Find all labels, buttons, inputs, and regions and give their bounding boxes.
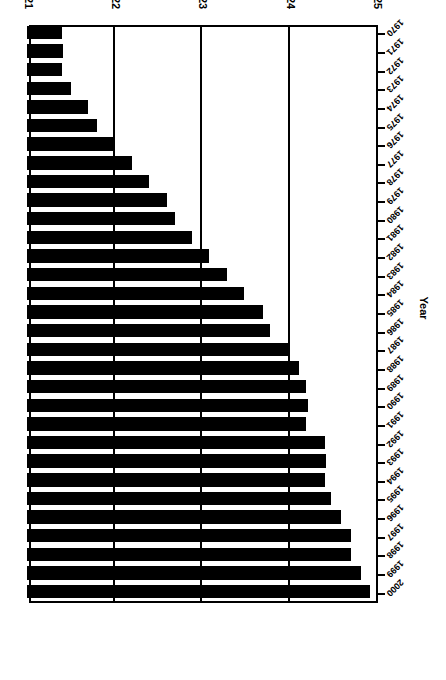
bar-row (31, 492, 376, 505)
bar-1974[interactable] (27, 100, 88, 113)
category-tick-1981 (378, 238, 385, 240)
bar-row (31, 510, 376, 523)
value-label-25: 25 (372, 0, 384, 15)
bar-1999[interactable] (27, 566, 361, 579)
value-label-21: 21 (23, 0, 35, 15)
bar-row (31, 44, 376, 57)
bar-1996[interactable] (27, 510, 341, 523)
bar-row (31, 287, 376, 300)
category-tick-1984 (378, 294, 385, 296)
bar-row (31, 137, 376, 150)
bar-1981[interactable] (27, 231, 192, 244)
bar-row (31, 268, 376, 281)
category-tick-1970 (378, 33, 385, 35)
bar-1991[interactable] (27, 417, 306, 430)
value-label-24: 24 (285, 0, 297, 15)
value-label-23: 23 (198, 0, 210, 15)
bar-1992[interactable] (27, 436, 325, 449)
category-tick-1971 (378, 52, 385, 54)
category-tick-1974 (378, 108, 385, 110)
bar-row (31, 100, 376, 113)
category-tick-1987 (378, 350, 385, 352)
category-tick-1999 (378, 574, 385, 576)
category-axis-title: Year (418, 296, 430, 319)
category-tick-1976 (378, 145, 385, 147)
bar-row (31, 399, 376, 412)
bar-row (31, 454, 376, 467)
bar-1993[interactable] (27, 454, 326, 467)
bar-row (31, 361, 376, 374)
bar-1975[interactable] (27, 119, 97, 132)
category-tick-1996 (378, 518, 385, 520)
bar-1971[interactable] (27, 44, 63, 57)
bar-1994[interactable] (27, 473, 325, 486)
category-tick-2000 (378, 593, 385, 595)
bar-row (31, 417, 376, 430)
bar-row (31, 193, 376, 206)
bar-1976[interactable] (27, 137, 114, 150)
bar-1979[interactable] (27, 193, 167, 206)
bar-row (31, 119, 376, 132)
chart-figure: 2000199919981997199619951994199319921991… (0, 0, 446, 680)
bar-1986[interactable] (27, 324, 270, 337)
category-tick-1973 (378, 89, 385, 91)
category-tick-1979 (378, 201, 385, 203)
category-tick-1986 (378, 332, 385, 334)
bar-row (31, 156, 376, 169)
category-tick-1997 (378, 537, 385, 539)
category-tick-1977 (378, 164, 385, 166)
category-tick-1992 (378, 444, 385, 446)
bar-row (31, 585, 376, 598)
bar-row (31, 82, 376, 95)
category-tick-1972 (378, 71, 385, 73)
bar-1985[interactable] (27, 305, 263, 318)
bar-row (31, 436, 376, 449)
bar-1987[interactable] (27, 343, 289, 356)
bar-row (31, 380, 376, 393)
bar-1984[interactable] (27, 287, 244, 300)
bar-1970[interactable] (27, 26, 62, 39)
bar-1977[interactable] (27, 156, 132, 169)
plot-area (29, 25, 378, 603)
bar-1982[interactable] (27, 249, 209, 262)
bar-row (31, 212, 376, 225)
bar-1995[interactable] (27, 492, 331, 505)
category-tick-1980 (378, 220, 385, 222)
bar-1988[interactable] (27, 361, 299, 374)
bar-1973[interactable] (27, 82, 71, 95)
bar-row (31, 231, 376, 244)
category-tick-1985 (378, 313, 385, 315)
category-tick-1975 (378, 127, 385, 129)
category-tick-1978 (378, 182, 385, 184)
bar-2000[interactable] (27, 585, 370, 598)
bar-row (31, 529, 376, 542)
bar-1980[interactable] (27, 212, 175, 225)
category-tick-1995 (378, 499, 385, 501)
category-tick-1993 (378, 462, 385, 464)
category-tick-1983 (378, 276, 385, 278)
value-label-22: 22 (110, 0, 122, 15)
bar-row (31, 473, 376, 486)
bar-row (31, 324, 376, 337)
bar-1978[interactable] (27, 175, 149, 188)
category-tick-1982 (378, 257, 385, 259)
bar-row (31, 548, 376, 561)
bar-row (31, 249, 376, 262)
category-tick-1989 (378, 388, 385, 390)
bar-1989[interactable] (27, 380, 306, 393)
category-tick-1988 (378, 369, 385, 371)
bar-1998[interactable] (27, 548, 351, 561)
bar-1972[interactable] (27, 63, 62, 76)
bar-row (31, 343, 376, 356)
category-tick-1994 (378, 481, 385, 483)
bar-1990[interactable] (27, 399, 308, 412)
bar-row (31, 566, 376, 579)
bar-1997[interactable] (27, 529, 351, 542)
category-tick-1990 (378, 406, 385, 408)
bar-row (31, 175, 376, 188)
bar-row (31, 305, 376, 318)
category-tick-1998 (378, 555, 385, 557)
bar-row (31, 26, 376, 39)
bar-1983[interactable] (27, 268, 227, 281)
category-tick-1991 (378, 425, 385, 427)
